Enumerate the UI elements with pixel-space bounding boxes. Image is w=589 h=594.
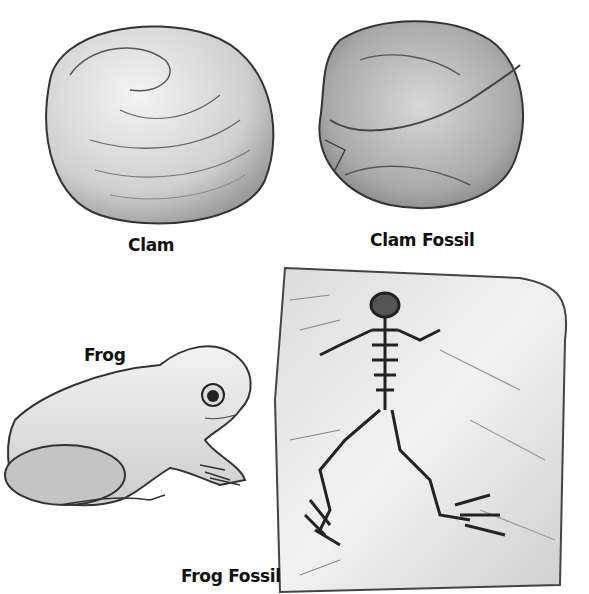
- clam-shell-drawing: [46, 26, 273, 223]
- frog-label: Frog: [84, 345, 126, 365]
- fossil-comparison-illustration: Clam Clam Fossil Frog Frog Fossil: [0, 0, 589, 594]
- frog-fossil-label: Frog Fossil: [181, 566, 281, 586]
- clam-label: Clam: [128, 235, 174, 255]
- frog-fossil-drawing: [275, 268, 566, 592]
- clam-fossil-drawing: [319, 21, 523, 208]
- illustration-art: [0, 0, 589, 594]
- clam-fossil-label: Clam Fossil: [370, 230, 475, 250]
- frog-drawing: [5, 346, 251, 505]
